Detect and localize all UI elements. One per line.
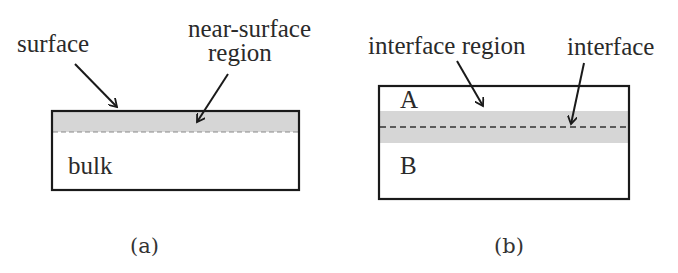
material-b-label: B <box>400 152 417 179</box>
interface-label: interface <box>567 33 654 60</box>
diagram-canvas: surface near-surface region bulk (a) int… <box>0 0 678 273</box>
surface-arrow <box>75 64 117 107</box>
panel-b: interface region interface A B (b) <box>368 32 654 258</box>
surface-label: surface <box>17 30 89 57</box>
interface-region-label: interface region <box>368 32 526 59</box>
panel-b-caption: (b) <box>494 234 524 258</box>
interface-region-arrow <box>457 61 483 106</box>
near-surface-label-line1: near-surface <box>188 15 311 42</box>
material-a-label: A <box>400 86 418 113</box>
panel-a-caption: (a) <box>130 234 159 258</box>
near-surface-label-line2: region <box>208 39 272 66</box>
near-surface-region-shading <box>53 112 298 132</box>
bulk-label: bulk <box>68 152 113 179</box>
panel-a: surface near-surface region bulk (a) <box>17 15 311 258</box>
